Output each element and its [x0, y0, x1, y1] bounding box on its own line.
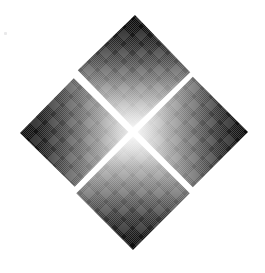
- four-diamond-emblem: [0, 0, 265, 273]
- emblem-canvas: [0, 0, 265, 273]
- scan-speck-artifact: [4, 32, 7, 35]
